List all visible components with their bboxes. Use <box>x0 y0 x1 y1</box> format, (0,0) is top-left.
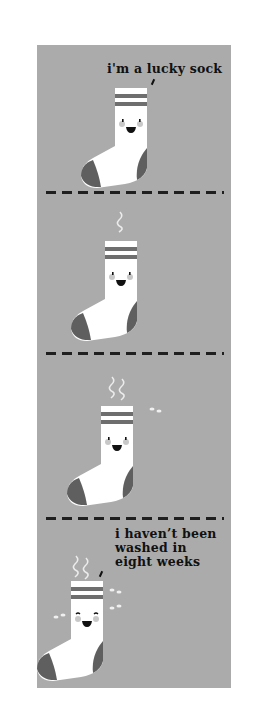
fly-icon <box>109 603 123 611</box>
panel-1: i'm a lucky sock <box>37 45 231 192</box>
sock-character <box>75 88 155 188</box>
panel-divider <box>46 191 224 194</box>
speech-caption-line-2: washed in <box>115 541 187 555</box>
speech-caption: i'm a lucky sock <box>107 62 222 76</box>
comic-strip: i'm a lucky sock <box>37 45 231 688</box>
fly-icon <box>109 587 123 595</box>
stink-lines-icon <box>107 376 131 402</box>
panel-4: i haven’t been washed in eight weeks <box>37 521 231 688</box>
speech-caption-line-3: eight weeks <box>115 555 200 569</box>
stink-lines-icon <box>114 211 126 233</box>
stink-lines-icon <box>71 555 95 581</box>
panel-3 <box>37 356 231 518</box>
sock-character <box>31 579 111 683</box>
panel-2 <box>37 195 231 353</box>
sock-character <box>61 406 141 506</box>
speech-tick-icon <box>99 571 103 577</box>
panel-divider <box>46 517 224 520</box>
speech-tick-icon <box>151 79 155 85</box>
speech-caption-line-1: i haven’t been <box>115 527 217 541</box>
sock-character <box>65 241 145 341</box>
fly-icon <box>149 406 163 414</box>
panel-divider <box>46 352 224 355</box>
